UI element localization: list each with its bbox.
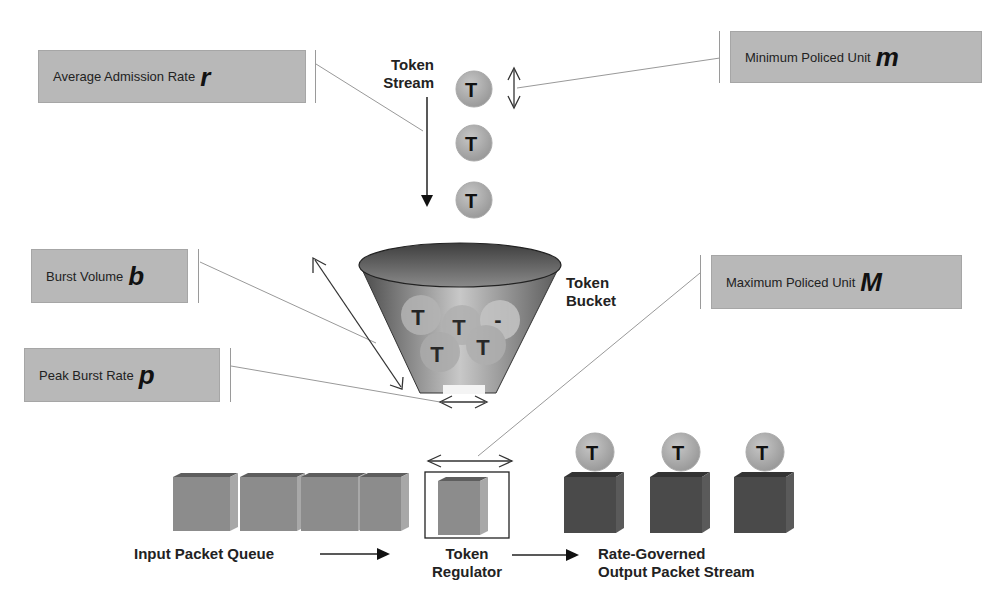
caption-line: Output Packet Stream (598, 563, 755, 581)
caption-line: Token (360, 56, 434, 74)
input-packet-queue-icon (173, 473, 409, 531)
regulator-to-output-arrow-icon (512, 549, 579, 561)
label-average-admission-rate: Average Admission Rate r (38, 50, 306, 103)
leader-line-peak-rate (231, 366, 440, 402)
tick-min-unit (719, 31, 720, 83)
queue-to-regulator-arrow-icon (320, 548, 390, 560)
stream-token-1: T (456, 71, 492, 107)
label-var: r (200, 64, 210, 90)
svg-text:T: T (411, 305, 425, 330)
token-regulator-icon (425, 455, 512, 538)
svg-text:T: T (465, 133, 477, 155)
label-text: Minimum Policed Unit (745, 50, 871, 65)
label-text: Burst Volume (46, 269, 123, 284)
label-var: b (128, 263, 144, 289)
label-text: Maximum Policed Unit (726, 275, 855, 290)
svg-text:T: T (430, 342, 444, 367)
svg-text:T: T (586, 442, 598, 464)
tick-peak-rate (230, 348, 231, 402)
svg-text:T: T (465, 190, 477, 212)
tick-max-unit (700, 255, 701, 309)
tick-burst-volume (198, 249, 199, 303)
stream-token-2: T (456, 125, 492, 161)
leader-line-burst-volume (200, 262, 376, 343)
label-text: Average Admission Rate (53, 69, 195, 84)
label-peak-burst-rate: Peak Burst Rate p (24, 348, 220, 402)
caption-token-stream: Token Stream (360, 56, 434, 92)
label-var: M (860, 269, 882, 295)
label-var: p (139, 362, 155, 388)
stream-token-3: T (456, 182, 492, 218)
caption-output-stream: Rate-Governed Output Packet Stream (598, 545, 755, 581)
tick-admission-rate (315, 50, 316, 103)
label-maximum-policed-unit: Maximum Policed Unit M (711, 255, 962, 309)
peak-rate-arrow-icon (440, 396, 487, 408)
caption-line: Regulator (420, 563, 514, 581)
caption-line: Stream (360, 74, 434, 92)
svg-text:T: T (452, 315, 466, 340)
token-bucket-icon: T T - T T (359, 243, 561, 394)
label-minimum-policed-unit: Minimum Policed Unit m (730, 31, 982, 83)
svg-text:T: T (476, 335, 490, 360)
leader-line-min-unit (517, 58, 720, 88)
label-text: Peak Burst Rate (39, 368, 134, 383)
caption-line: Bucket (566, 292, 616, 310)
svg-text:T: T (756, 442, 768, 464)
svg-text:T: T (465, 79, 477, 101)
caption-line: Rate-Governed (598, 545, 755, 563)
caption-token-bucket: Token Bucket (566, 274, 616, 310)
label-burst-volume: Burst Volume b (31, 249, 188, 303)
caption-line: Token (420, 545, 514, 563)
caption-input-packet-queue: Input Packet Queue (134, 545, 274, 563)
caption-token-regulator: Token Regulator (420, 545, 514, 581)
output-packet-stream-icon: T T T (564, 433, 794, 533)
label-var: m (876, 44, 899, 70)
caption-line: Token (566, 274, 616, 292)
svg-text:T: T (672, 442, 684, 464)
max-unit-arrow-icon (428, 455, 512, 467)
